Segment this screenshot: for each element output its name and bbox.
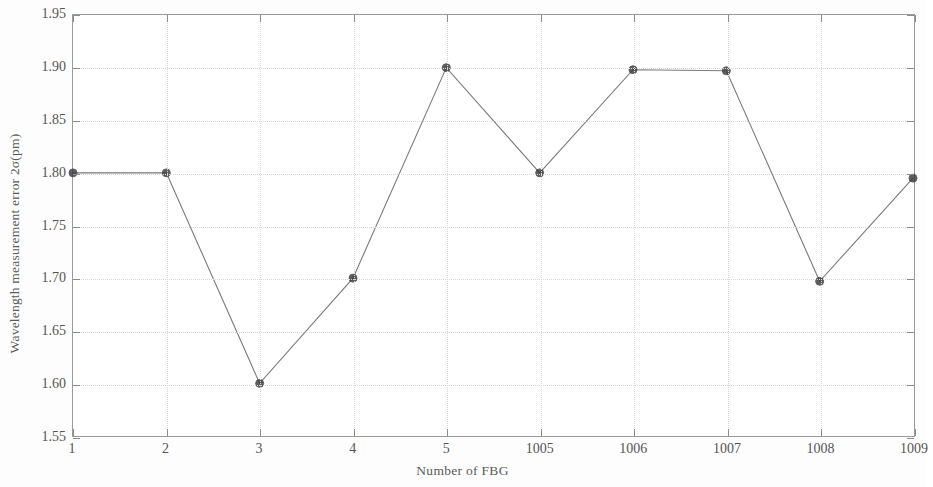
x-axis-tick-label: 1009 bbox=[874, 441, 933, 457]
y-axis-tick-mark bbox=[907, 279, 914, 280]
y-axis-tick-mark bbox=[73, 279, 80, 280]
y-axis-tick-mark bbox=[73, 68, 80, 69]
x-axis-tick-mark bbox=[728, 15, 729, 22]
x-axis-tick-label: 2 bbox=[126, 441, 206, 457]
vertical-gridline bbox=[354, 15, 355, 436]
x-axis-tick-mark bbox=[447, 429, 448, 436]
vertical-gridline bbox=[634, 15, 635, 436]
y-axis-tick-label: 1.70 bbox=[22, 271, 66, 285]
horizontal-gridline bbox=[73, 227, 914, 228]
vertical-gridline bbox=[167, 15, 168, 436]
x-axis-tick-mark bbox=[541, 15, 542, 22]
x-axis-tick-mark bbox=[260, 15, 261, 22]
x-axis-tick-mark bbox=[73, 429, 74, 436]
x-axis-tick-mark bbox=[821, 15, 822, 22]
x-axis-tick-mark bbox=[728, 429, 729, 436]
x-axis-tick-mark bbox=[447, 15, 448, 22]
x-axis-tick-mark bbox=[73, 15, 74, 22]
x-axis-tick-mark bbox=[167, 429, 168, 436]
y-axis-tick-labels: 1.951.901.851.801.751.701.651.601.55 bbox=[18, 0, 66, 487]
y-axis-tick-mark bbox=[907, 227, 914, 228]
y-axis-tick-label: 1.90 bbox=[22, 60, 66, 74]
vertical-gridline bbox=[447, 15, 448, 436]
horizontal-gridline bbox=[73, 385, 914, 386]
x-axis-tick-mark bbox=[541, 429, 542, 436]
data-point-marker bbox=[909, 174, 917, 182]
y-axis-tick-mark bbox=[73, 385, 80, 386]
y-axis-tick-label: 1.65 bbox=[22, 324, 66, 338]
series-polyline bbox=[73, 68, 913, 384]
vertical-gridline bbox=[260, 15, 261, 436]
y-axis-tick-label: 1.95 bbox=[22, 7, 66, 21]
y-axis-tick-mark bbox=[907, 15, 914, 16]
y-axis-tick-mark bbox=[907, 438, 914, 439]
x-axis-tick-label: 4 bbox=[313, 441, 393, 457]
y-axis-tick-mark bbox=[907, 121, 914, 122]
x-axis-title: Number of FBG bbox=[0, 463, 925, 479]
x-axis-tick-label: 3 bbox=[219, 441, 299, 457]
vertical-gridline bbox=[821, 15, 822, 436]
y-axis-tick-mark bbox=[907, 68, 914, 69]
x-axis-tick-label: 1007 bbox=[687, 441, 767, 457]
horizontal-gridline bbox=[73, 68, 914, 69]
y-axis-tick-mark bbox=[73, 332, 80, 333]
y-axis-tick-mark bbox=[73, 15, 80, 16]
horizontal-gridline bbox=[73, 174, 914, 175]
y-axis-tick-mark bbox=[73, 227, 80, 228]
x-axis-tick-mark bbox=[167, 15, 168, 22]
x-axis-tick-mark bbox=[634, 15, 635, 22]
horizontal-gridline bbox=[73, 121, 914, 122]
y-axis-tick-mark bbox=[73, 174, 80, 175]
vertical-gridline bbox=[541, 15, 542, 436]
x-axis-tick-label: 1006 bbox=[593, 441, 673, 457]
x-axis-tick-label: 1 bbox=[32, 441, 112, 457]
x-axis-tick-mark bbox=[260, 429, 261, 436]
y-axis-tick-label: 1.60 bbox=[22, 377, 66, 391]
x-axis-tick-label: 1008 bbox=[780, 441, 860, 457]
x-axis-tick-label: 5 bbox=[406, 441, 486, 457]
y-axis-tick-mark bbox=[73, 121, 80, 122]
x-axis-tick-mark bbox=[821, 429, 822, 436]
y-axis-tick-label: 1.80 bbox=[22, 166, 66, 180]
y-axis-tick-mark bbox=[907, 332, 914, 333]
x-axis-tick-mark bbox=[634, 429, 635, 436]
data-series-line bbox=[73, 15, 914, 436]
horizontal-gridline bbox=[73, 332, 914, 333]
x-axis-tick-label: 1005 bbox=[500, 441, 580, 457]
y-axis-tick-label: 1.75 bbox=[22, 219, 66, 233]
plot-area bbox=[72, 14, 915, 437]
y-axis-tick-mark bbox=[907, 174, 914, 175]
x-axis-tick-mark bbox=[354, 429, 355, 436]
y-axis-tick-mark bbox=[73, 438, 80, 439]
x-axis-tick-mark bbox=[915, 15, 916, 22]
x-axis-tick-mark bbox=[915, 429, 916, 436]
y-axis-tick-label: 1.85 bbox=[22, 113, 66, 127]
x-axis-tick-mark bbox=[354, 15, 355, 22]
horizontal-gridline bbox=[73, 279, 914, 280]
vertical-gridline bbox=[728, 15, 729, 436]
x-axis-tick-labels: 1234510051006100710081009 bbox=[0, 441, 925, 465]
y-axis-tick-mark bbox=[907, 385, 914, 386]
